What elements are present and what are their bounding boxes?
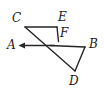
geometry-figure: A B C D E F — [0, 0, 104, 93]
segment-XB — [50, 46, 85, 48]
vertex-label-F: F — [60, 27, 68, 39]
vertex-label-E: E — [58, 11, 67, 23]
segment-EF — [57, 27, 59, 42]
vertex-label-B: B — [89, 38, 98, 50]
vertex-label-C: C — [12, 12, 21, 24]
vertex-label-D: D — [69, 75, 79, 87]
arrow-toward-A-icon — [19, 42, 26, 48]
segment-BD — [75, 47, 85, 71]
vertex-label-A: A — [7, 39, 16, 51]
